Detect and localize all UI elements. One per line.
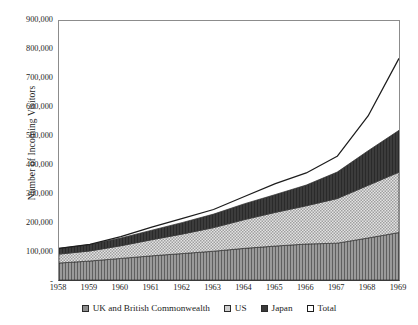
legend-label-uk: UK and British Commonwealth bbox=[93, 303, 210, 313]
legend-label-us: US bbox=[235, 303, 247, 313]
x-tick-label: 1959 bbox=[81, 283, 98, 292]
x-tick-label: 1965 bbox=[266, 283, 283, 292]
x-tick-label: 1962 bbox=[173, 283, 190, 292]
x-tick-label: 1961 bbox=[142, 283, 159, 292]
chart-legend: UK and British Commonwealth US Japan Tot… bbox=[0, 303, 418, 313]
x-tick-label: 1967 bbox=[328, 283, 345, 292]
x-tick-label: 1968 bbox=[359, 283, 376, 292]
y-tick-label: 300,000 bbox=[26, 190, 53, 198]
y-tick-label: 100,000 bbox=[26, 248, 53, 256]
x-tick-label: 1966 bbox=[297, 283, 314, 292]
y-tick-label: 400,000 bbox=[26, 161, 53, 169]
y-axis-tick-labels: 900,000800,000700,000600,000500,000400,0… bbox=[0, 0, 56, 300]
stacked-area-plot bbox=[59, 21, 399, 280]
chart-container: Number of Incoming Visitors 900,000800,0… bbox=[0, 0, 418, 325]
legend-item-us[interactable]: US bbox=[224, 303, 247, 313]
y-tick-label: 900,000 bbox=[26, 16, 53, 24]
legend-item-total[interactable]: Total bbox=[307, 303, 337, 313]
x-tick-label: 1958 bbox=[50, 283, 67, 292]
y-tick-label: 700,000 bbox=[26, 74, 53, 82]
japan-swatch-icon bbox=[261, 305, 268, 312]
x-tick-label: 1964 bbox=[235, 283, 252, 292]
legend-item-japan[interactable]: Japan bbox=[261, 303, 293, 313]
plot-area bbox=[58, 20, 400, 281]
x-tick-label: 1969 bbox=[390, 283, 407, 292]
uk-swatch-icon bbox=[82, 305, 89, 312]
y-tick-label: 200,000 bbox=[26, 219, 53, 227]
legend-label-japan: Japan bbox=[272, 303, 293, 313]
y-tick-label: 800,000 bbox=[26, 45, 53, 53]
legend-label-total: Total bbox=[318, 303, 337, 313]
x-tick-label: 1960 bbox=[112, 283, 129, 292]
x-tick-label: 1963 bbox=[204, 283, 221, 292]
legend-item-uk-and-british-commonwealth[interactable]: UK and British Commonwealth bbox=[82, 303, 210, 313]
y-tick-label: 500,000 bbox=[26, 132, 53, 140]
y-tick-label: 600,000 bbox=[26, 103, 53, 111]
total-swatch-icon bbox=[307, 305, 314, 312]
x-axis-tick-labels: 1958195919601961196219631964196519661967… bbox=[58, 283, 400, 299]
us-swatch-icon bbox=[224, 305, 231, 312]
